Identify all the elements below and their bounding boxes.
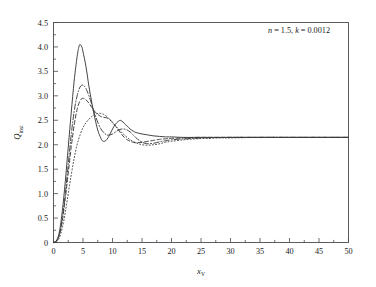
y-axis-tick-label: 4.5 [38, 19, 48, 28]
x-axis-tick-label: 10 [108, 247, 116, 256]
x-axis-tick-label: 5 [81, 247, 85, 256]
series-line-phi-1-49 [54, 45, 349, 243]
y-axis-title: Qinst [12, 125, 24, 140]
series-line-phi-4 [54, 113, 349, 242]
y-axis-tick-label: 1.0 [38, 190, 48, 199]
y-axis-tick-label: 2.0 [38, 141, 48, 150]
series-line-phi-2-97 [54, 98, 349, 242]
y-axis-tick-label: 3.5 [38, 67, 48, 76]
x-axis-tick-label: 45 [315, 247, 323, 256]
y-axis-tick-label: 3.0 [38, 92, 48, 101]
x-axis-tick-label: 35 [256, 247, 264, 256]
y-axis-tick-label: 0 [44, 239, 48, 248]
x-axis-tick-label: 30 [226, 247, 234, 256]
y-axis-tick-label: 1.5 [38, 165, 48, 174]
y-axis-tick-label: 2.5 [38, 116, 48, 125]
chart-canvas: 00.51.01.52.02.53.03.54.04.5051015202530… [0, 0, 376, 287]
x-axis-tick-label: 0 [51, 247, 55, 256]
x-axis-title: xV [196, 266, 205, 278]
legend-header: n = 1.5, k = 0.0012 [268, 26, 330, 35]
series-line-phi-2 [54, 85, 349, 242]
figure-container: 00.51.01.52.02.53.03.54.04.5051015202530… [0, 0, 376, 287]
y-axis-tick-label: 4.0 [38, 43, 48, 52]
x-axis-tick-label: 40 [285, 247, 293, 256]
y-axis-tick-label: 0.5 [38, 214, 48, 223]
x-axis-tick-label: 25 [197, 247, 205, 256]
x-axis-tick-label: 50 [344, 247, 352, 256]
x-axis-tick-label: 20 [167, 247, 175, 256]
svg-text:Qinst: Qinst [12, 125, 24, 140]
plot-frame [54, 23, 349, 243]
x-axis-tick-label: 15 [138, 247, 146, 256]
